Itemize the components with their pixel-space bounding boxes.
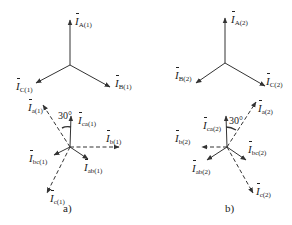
phasor-c1	[47, 147, 70, 193]
angle-label-b: 30°	[229, 115, 243, 126]
phasor-ab1	[70, 147, 88, 159]
phasor-bc2	[227, 147, 246, 160]
label-Ibc1: Ibc(1)	[29, 153, 47, 166]
phasor-C2	[225, 63, 265, 86]
label-IA1: IA(1)	[75, 16, 92, 29]
angle-label-a: 30°	[58, 110, 72, 121]
phasor-lines	[0, 0, 292, 225]
label-Ia2: Ia(2)	[258, 103, 273, 116]
phasor-B2	[196, 63, 225, 83]
label-IC2: IC(2)	[266, 76, 283, 89]
label-Ia1: Ia(1)	[28, 102, 43, 115]
label-IC1: IC(1)	[16, 81, 33, 94]
label-IB1: IB(1)	[115, 78, 132, 91]
phasor-ca2	[226, 116, 227, 147]
label-Ic2: Ic(2)	[256, 186, 271, 199]
phasor-ab2	[207, 147, 227, 160]
label-Ib1: Ib(1)	[106, 133, 121, 146]
angle-arc-a	[62, 127, 71, 128]
phasor-bc1	[54, 147, 70, 155]
label-IA2: IA(2)	[231, 14, 248, 27]
label-Iab2: Iab(2)	[192, 163, 210, 176]
phasor-B1	[70, 65, 110, 87]
label-Iab1: Iab(1)	[84, 162, 102, 175]
caption-b: b)	[225, 202, 234, 214]
phasor-C1	[36, 65, 70, 83]
label-Ica2: Ica(2)	[203, 120, 221, 133]
label-IB2: IB(2)	[175, 70, 192, 83]
angle-arc-b	[226, 127, 236, 130]
label-Ibc2: Ibc(2)	[248, 144, 266, 157]
caption-a: a)	[63, 202, 72, 214]
label-Ib2: Ib(2)	[175, 133, 190, 146]
label-Ica1: Ica(1)	[78, 115, 96, 128]
phasor-diagram: IA(1) IB(1) IC(1) IA(2) IB(2) IC(2) Ia(1…	[0, 0, 292, 225]
